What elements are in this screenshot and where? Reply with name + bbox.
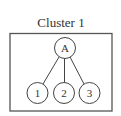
node-3-label: 3 [87,87,93,99]
edge-a-3 [70,57,84,84]
node-3: 3 [79,83,100,104]
node-2: 2 [54,83,75,104]
node-a: A [55,38,76,59]
cluster-title: Cluster 1 [37,15,84,30]
cluster-diagram: Cluster 1 A 1 2 3 [0,0,121,116]
node-1-label: 1 [35,87,41,99]
node-2-label: 2 [61,87,67,99]
node-a-label: A [61,42,69,54]
edge-a-1 [43,57,59,84]
node-1: 1 [27,83,48,104]
edges [43,57,84,84]
